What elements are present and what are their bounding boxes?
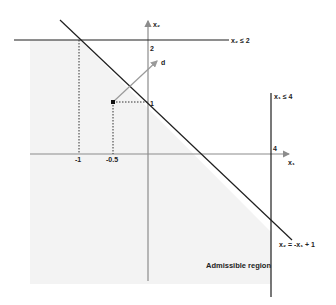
diagram-canvas: x₂ x₁ 2 1 -1 -0.5 4 x₂ ≤ 2 x₁ ≤ 4 x₂ = -… [0, 0, 336, 305]
admissible-region [30, 40, 271, 284]
constraint-label-x1-le-4: x₁ ≤ 4 [274, 93, 293, 100]
x1-axis-label: x₁ [288, 159, 295, 166]
constraint-label-x2-le-2: x₂ ≤ 2 [231, 37, 250, 44]
tick-y-1: 1 [150, 100, 154, 107]
diagram-svg: x₂ x₁ 2 1 -1 -0.5 4 x₂ ≤ 2 x₁ ≤ 4 x₂ = -… [0, 0, 336, 305]
current-point [111, 100, 115, 104]
tick-y-2: 2 [150, 45, 154, 52]
x2-axis-label: x₂ [153, 21, 160, 28]
tick-x-4: 4 [273, 145, 277, 152]
tick-x-minus05: -0.5 [106, 156, 118, 163]
direction-label-d: d [161, 59, 165, 66]
constraint-label-diagonal: x₂ = -x₁ + 1 [279, 241, 315, 248]
admissible-region-label: Admissible region [206, 261, 271, 270]
tick-x-minus1: -1 [75, 156, 81, 163]
